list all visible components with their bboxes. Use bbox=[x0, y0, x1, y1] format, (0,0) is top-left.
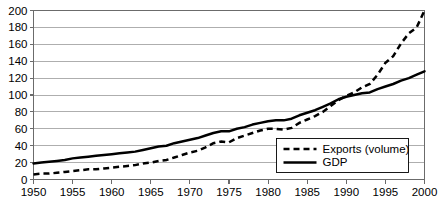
line-chart: 020406080100120140160180200 195019551960… bbox=[0, 0, 440, 208]
x-axis-label-1970: 1970 bbox=[177, 186, 203, 198]
x-axis-label-1980: 1980 bbox=[255, 186, 281, 198]
x-axis-label-1965: 1965 bbox=[138, 186, 164, 198]
y-axis-label-80: 80 bbox=[15, 106, 28, 118]
y-axis-tick-labels: 020406080100120140160180200 bbox=[8, 5, 27, 186]
y-axis-label-140: 140 bbox=[8, 55, 27, 67]
x-axis-label-1955: 1955 bbox=[60, 186, 86, 198]
y-axis-label-20: 20 bbox=[15, 157, 28, 169]
x-axis-label-1990: 1990 bbox=[334, 186, 360, 198]
x-axis-label-2000: 2000 bbox=[412, 186, 438, 198]
x-axis-label-1975: 1975 bbox=[216, 186, 242, 198]
y-axis-label-120: 120 bbox=[8, 72, 27, 84]
y-axis-label-180: 180 bbox=[8, 21, 27, 33]
y-axis-label-100: 100 bbox=[8, 89, 27, 101]
legend-label-gdp: GDP bbox=[323, 156, 348, 168]
x-axis-label-1985: 1985 bbox=[294, 186, 320, 198]
legend-label-exports-volume: Exports (volume) bbox=[323, 143, 410, 155]
x-axis-tick-labels: 1950195519601965197019751980198519901995… bbox=[21, 186, 438, 198]
x-axis-label-1960: 1960 bbox=[99, 186, 125, 198]
y-axis-label-40: 40 bbox=[15, 140, 28, 152]
chart-legend: Exports (volume)GDP bbox=[277, 139, 410, 173]
y-axis-label-200: 200 bbox=[8, 5, 27, 17]
x-axis-label-1995: 1995 bbox=[373, 186, 399, 198]
y-axis-label-160: 160 bbox=[8, 38, 27, 50]
chart-canvas: 020406080100120140160180200 195019551960… bbox=[0, 0, 440, 208]
x-axis-label-1950: 1950 bbox=[21, 186, 47, 198]
y-axis-label-0: 0 bbox=[21, 174, 27, 186]
y-axis-label-60: 60 bbox=[15, 123, 28, 135]
